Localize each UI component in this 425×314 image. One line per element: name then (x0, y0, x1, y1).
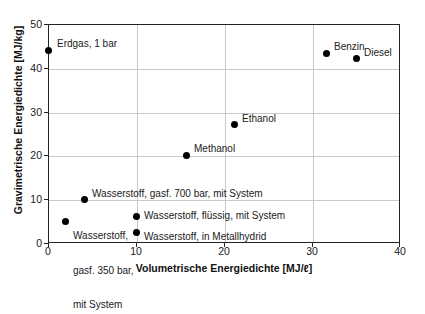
pointlabel-methanol: Methanol (194, 143, 235, 155)
y-tick-label-0: 0 (36, 237, 42, 249)
y-tick-label-30: 30 (30, 106, 42, 118)
pointlabel-h2-350bar-line3: mit System (73, 299, 134, 311)
gridline-horizontal-30 (49, 113, 399, 114)
datapoint-methanol (183, 152, 190, 159)
pointlabel-benzin: Benzin (334, 41, 365, 53)
y-tick-label-10: 10 (30, 193, 42, 205)
datapoint-diesel (353, 55, 360, 62)
pointlabel-h2-metallhydrid: Wasserstoff, in Metallhydrid (144, 231, 266, 243)
pointlabel-h2-liquid: Wasserstoff, flüssig, mit System (144, 210, 285, 222)
pointlabel-ethanol: Ethanol (242, 113, 276, 125)
x-tick-label-40: 40 (394, 245, 406, 257)
x-tick-label-30: 30 (306, 245, 318, 257)
datapoint-h2-350bar (62, 218, 69, 225)
y-axis-title: Gravimetrische Energiedichte [MJ/kg] (12, 10, 24, 230)
x-tick-label-0: 0 (45, 245, 51, 257)
gridline-horizontal-10 (49, 200, 399, 201)
gridline-vertical-30 (313, 25, 314, 242)
pointlabel-h2-350bar-line2: gasf. 350 bar, (73, 265, 134, 277)
datapoint-h2-700bar (81, 196, 88, 203)
tickmark-y-0 (44, 243, 48, 244)
gridline-vertical-10 (137, 25, 138, 242)
gridline-horizontal-40 (49, 69, 399, 70)
tickmark-y-40 (44, 68, 48, 69)
tickmark-y-50 (44, 24, 48, 25)
pointlabel-h2-350bar-line1: Wasserstoff, (73, 230, 134, 242)
tickmark-y-10 (44, 199, 48, 200)
pointlabel-h2-700bar: Wasserstoff, gasf. 700 bar, mit System (92, 188, 263, 200)
y-tick-label-50: 50 (30, 18, 42, 30)
datapoint-erdgas (45, 47, 52, 54)
x-tick-label-20: 20 (218, 245, 230, 257)
tickmark-y-30 (44, 112, 48, 113)
y-tick-label-40: 40 (30, 62, 42, 74)
gridline-horizontal-20 (49, 156, 399, 157)
pointlabel-erdgas: Erdgas, 1 bar (57, 38, 117, 50)
pointlabel-h2-350bar: Wasserstoff, gasf. 350 bar, mit System (73, 207, 134, 314)
pointlabel-diesel: Diesel (364, 47, 392, 59)
tickmark-y-20 (44, 155, 48, 156)
y-tick-label-20: 20 (30, 149, 42, 161)
